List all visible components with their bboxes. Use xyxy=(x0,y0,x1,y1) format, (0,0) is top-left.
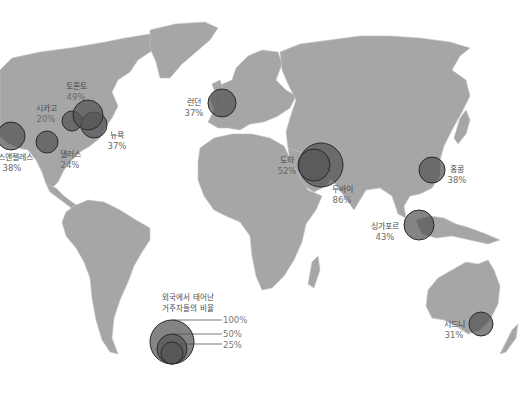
label-dubai: 두바이 86% xyxy=(328,185,356,205)
label-sydney: 시드니 31% xyxy=(440,320,468,340)
legend-circles xyxy=(150,320,222,364)
bubble-hong-kong xyxy=(419,157,445,183)
legend-value-25: 25% xyxy=(223,340,242,350)
land-madagascar xyxy=(308,256,320,288)
bubble-doha xyxy=(298,149,330,181)
label-dallas: 댈러스 24% xyxy=(56,150,84,170)
bubble-sydney xyxy=(469,312,493,336)
label-chicago: 시카고 20% xyxy=(32,104,60,124)
land-new-zealand xyxy=(500,324,518,354)
label-singapore: 싱가포르 43% xyxy=(368,222,402,242)
bubble-los-angeles xyxy=(0,122,25,150)
bubble-toronto xyxy=(73,100,103,130)
label-toronto: 토론토 49% xyxy=(62,82,90,102)
legend-title: 외국에서 태어난 거주자들의 비율 xyxy=(156,292,220,314)
label-doha: 도하 52% xyxy=(276,156,298,176)
land-central-america xyxy=(46,184,78,210)
legend-value-100: 100% xyxy=(223,315,247,325)
bubble-dallas xyxy=(36,131,58,153)
label-hong-kong: 홍콩 38% xyxy=(446,165,468,185)
legend-value-50: 50% xyxy=(223,329,242,339)
label-london: 런던 37% xyxy=(182,98,206,118)
label-new-york: 뉴욕 37% xyxy=(104,131,130,151)
land-south-america xyxy=(62,200,150,354)
bubble-singapore xyxy=(404,210,434,240)
label-los-angeles: 로스앤젤레스 38% xyxy=(0,153,40,173)
land-greenland xyxy=(150,22,218,78)
bubble-london xyxy=(208,89,236,117)
